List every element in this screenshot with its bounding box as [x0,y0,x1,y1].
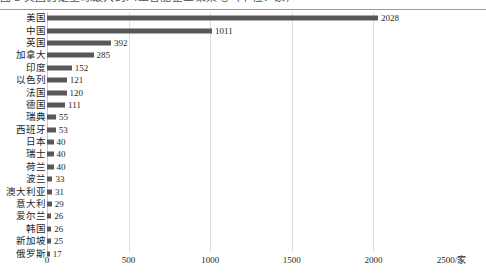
bar-row: 日本40 [0,136,486,148]
bar-wrapper [47,202,52,207]
x-tick-label: 1500 [283,255,301,266]
bar-row: 德国111 [0,99,486,111]
bar-row: 瑞典55 [0,111,486,123]
x-tick-label: 0 [45,255,50,266]
plot-area: 美国2028中国1011英国392加拿大285印度152以色列121法国120德… [0,12,486,252]
category-label: 加拿大 [0,50,46,60]
category-label: 澳大利亚 [0,187,46,197]
category-label: 波兰 [0,174,46,184]
bar-value-label: 285 [97,50,111,60]
bar-value-label: 40 [57,162,66,172]
x-tick-label: 2500/家 [437,255,467,266]
bar-wrapper [47,127,56,132]
bar-wrapper [47,152,54,157]
bar-wrapper [47,115,56,120]
bar[interactable] [47,16,378,21]
bar-row: 美国2028 [0,12,486,24]
bar-wrapper [47,53,94,58]
bar-value-label: 26 [54,224,63,234]
bar-row: 印度152 [0,62,486,74]
bar-value-label: 120 [70,88,84,98]
bar-value-label: 152 [75,63,89,73]
bar-wrapper [47,78,67,83]
bar-row: 法国120 [0,86,486,98]
bar[interactable] [47,226,51,231]
category-label: 法国 [0,88,46,98]
bar-row: 新加坡25 [0,235,486,247]
bar-row: 波兰33 [0,173,486,185]
bar-wrapper [47,226,51,231]
bar-row: 以色列121 [0,74,486,86]
category-label: 瑞典 [0,112,46,122]
bar[interactable] [47,127,56,132]
bar-wrapper [47,90,67,95]
bar-wrapper [47,16,378,21]
bar[interactable] [47,189,52,194]
bar-row: 意大利29 [0,198,486,210]
category-label: 印度 [0,63,46,73]
category-label: 爱尔兰 [0,211,46,221]
category-label: 美国 [0,13,46,23]
bar-value-label: 1011 [215,26,233,36]
bar-value-label: 392 [114,38,128,48]
bar-rows: 美国2028中国1011英国392加拿大285印度152以色列121法国120德… [0,12,486,260]
bar-value-label: 121 [70,75,84,85]
bar-wrapper [47,40,111,45]
bar-value-label: 40 [57,137,66,147]
category-label: 中国 [0,26,46,36]
bar-row: 加拿大285 [0,49,486,61]
bar[interactable] [47,214,51,219]
bar-value-label: 31 [55,187,64,197]
bar[interactable] [47,90,67,95]
bar[interactable] [47,53,94,58]
bar[interactable] [47,177,52,182]
bar[interactable] [47,115,56,120]
bar[interactable] [47,40,111,45]
bar-value-label: 29 [55,199,64,209]
bar[interactable] [47,152,54,157]
x-tick-label: 500 [122,255,136,266]
bar[interactable] [47,140,54,145]
chart-figure: 图 2 美国仍是全球最大的人工智能企业聚集地（单位：家） 美国2028中国101… [0,0,486,276]
category-label: 韩国 [0,224,46,234]
category-label: 以色列 [0,75,46,85]
bar-row: 爱尔兰26 [0,210,486,222]
bar-row: 英国392 [0,37,486,49]
bar-value-label: 2028 [381,13,399,23]
bar-row: 瑞士40 [0,148,486,160]
category-label: 荷兰 [0,162,46,172]
bar[interactable] [47,202,52,207]
bar-row: 西班牙53 [0,124,486,136]
category-label: 新加坡 [0,236,46,246]
category-label: 德国 [0,100,46,110]
category-label: 英国 [0,38,46,48]
figure-caption: 图 2 美国仍是全球最大的人工智能企业聚集地（单位：家） [0,0,486,3]
bar-wrapper [47,177,52,182]
bar[interactable] [47,239,51,244]
x-tick-label: 2000 [364,255,382,266]
category-label: 瑞士 [0,149,46,159]
bar-wrapper [47,102,65,107]
bar[interactable] [47,28,212,33]
bar-wrapper [47,164,54,169]
category-label: 西班牙 [0,125,46,135]
bar-value-label: 26 [54,211,63,221]
bar[interactable] [47,78,67,83]
x-axis: 05001000150020002500/家 [0,252,486,272]
bar-value-label: 111 [68,100,81,110]
category-label: 日本 [0,137,46,147]
bar-wrapper [47,140,54,145]
bar-wrapper [47,65,72,70]
bar-wrapper [47,214,51,219]
top-divider-rule [0,9,486,10]
x-tick-label: 1000 [201,255,219,266]
bar[interactable] [47,102,65,107]
bar-wrapper [47,239,51,244]
bar[interactable] [47,164,54,169]
bar[interactable] [47,65,72,70]
bar-row: 荷兰40 [0,161,486,173]
bar-value-label: 53 [59,125,68,135]
bar-wrapper [47,28,212,33]
bar-value-label: 33 [55,174,64,184]
bar-value-label: 55 [59,112,68,122]
